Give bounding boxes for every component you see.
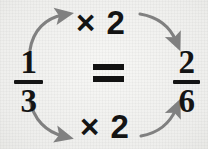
arrow-bottom-right (141, 109, 176, 136)
equals-bar-bottom (93, 76, 124, 82)
multiply-label-top: × 2 (76, 4, 126, 42)
multiply-label-bottom: × 2 (80, 108, 130, 146)
left-fraction-denominator: 3 (21, 85, 37, 118)
equals-bar-top (93, 64, 124, 70)
equals-sign (93, 64, 124, 82)
left-fraction-numerator: 1 (21, 46, 37, 79)
left-fraction: 1 3 (14, 46, 43, 118)
arrow-top-right (140, 14, 176, 41)
right-fraction-numerator: 2 (179, 46, 195, 79)
right-fraction-denominator: 6 (179, 85, 195, 118)
equivalent-fractions-diagram: 1 3 2 6 × 2 × 2 (0, 0, 208, 149)
right-fraction: 2 6 (173, 46, 200, 118)
